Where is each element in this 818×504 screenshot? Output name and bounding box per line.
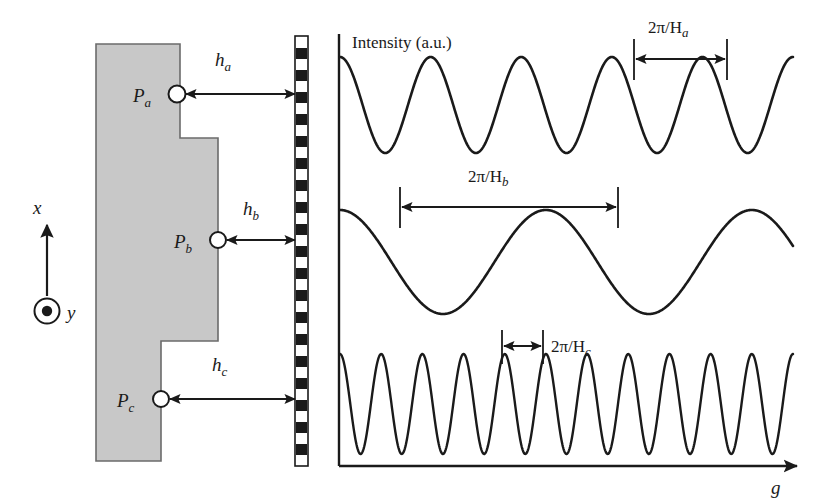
detector-checker-cells	[296, 37, 307, 465]
period-a-label: 2π/Ha	[648, 18, 689, 40]
g-axis-caption: g	[771, 477, 781, 498]
waveform-c: 2π/Hc	[340, 330, 793, 454]
schematic-and-plot-figure: x y	[0, 0, 818, 504]
coordinate-axes-indicator: x y	[32, 197, 76, 324]
point-pb-marker	[210, 232, 226, 248]
hc-gap-label: hc	[212, 354, 228, 379]
point-pc-marker	[153, 391, 169, 407]
y-axis-label: y	[65, 302, 76, 323]
hb-gap-label: hb	[243, 198, 260, 223]
period-c-label: 2π/Hc	[551, 337, 591, 359]
y-axis-dot-icon	[42, 306, 52, 316]
waveform-b: 2π/Hb	[340, 167, 793, 314]
checkered-detector-bar	[295, 36, 308, 466]
intensity-axis-caption: Intensity (a.u.)	[352, 33, 452, 52]
x-axis-label: x	[32, 197, 42, 218]
waveform-a-curve	[340, 57, 793, 153]
figure-root: x y	[0, 0, 818, 504]
waveform-c-curve	[340, 354, 793, 454]
ha-gap-label: ha	[215, 49, 232, 74]
waveform-b-curve	[340, 210, 793, 314]
point-pa-marker	[169, 86, 186, 103]
period-b-label: 2π/Hb	[468, 167, 509, 189]
